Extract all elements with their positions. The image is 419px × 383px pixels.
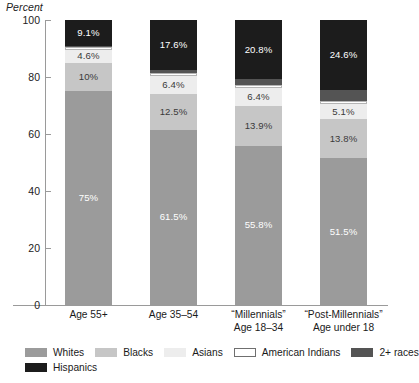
- bar-segment-value: 4.6%: [65, 51, 112, 61]
- bar-segment-value: 51.5%: [320, 227, 367, 237]
- bar-segment-american-indians: [320, 101, 367, 104]
- bar-1: 75%10%4.6%9.1%: [65, 20, 112, 305]
- bar-segment-whites: 55.8%: [235, 146, 282, 305]
- legend-label: Hispanics: [53, 362, 97, 373]
- bar-segment-whites: 61.5%: [150, 130, 197, 305]
- bar-segment-value: 6.4%: [235, 92, 282, 102]
- legend-item-hispanics[interactable]: Hispanics: [25, 362, 97, 373]
- y-tick-label: 60: [0, 128, 40, 140]
- bar-segment-american-indians: [65, 47, 112, 49]
- bar-segment-asians: 6.4%: [150, 76, 197, 94]
- legend-label: Asians: [192, 347, 223, 358]
- bar-3: 55.8%13.9%6.4%20.8%: [235, 20, 282, 305]
- legend-item-2-races[interactable]: 2+ races: [351, 347, 418, 358]
- legend: WhitesBlacksAsiansAmerican Indians2+ rac…: [25, 347, 397, 373]
- y-axis-title: Percent: [6, 1, 43, 13]
- bar-segment-value: 55.8%: [235, 221, 282, 231]
- legend-row-secondary: Hispanics: [25, 362, 397, 373]
- bar-segment-value: 13.9%: [235, 121, 282, 131]
- legend-swatch-icon: [351, 348, 373, 357]
- bar-segment-2-races: [150, 70, 197, 73]
- bar-segment-value: 6.4%: [150, 80, 197, 90]
- legend-swatch-icon: [95, 348, 117, 357]
- y-tick-label: 80: [0, 71, 40, 83]
- x-tick-label-line: “Post-Millennials”: [284, 309, 404, 322]
- bar-segment-value: 13.8%: [320, 134, 367, 144]
- bar-segment-value: 10%: [65, 72, 112, 82]
- legend-swatch-icon: [25, 348, 47, 357]
- bar-segment-value: 5.1%: [320, 107, 367, 117]
- bar-segment-hispanics: 24.6%: [320, 20, 367, 90]
- legend-label: 2+ races: [379, 347, 418, 358]
- legend-swatch-icon: [234, 348, 256, 357]
- bar-segment-whites: 75%: [65, 91, 112, 305]
- x-tick-label-line: Age under 18: [284, 322, 404, 335]
- bar-segment-blacks: 13.8%: [320, 119, 367, 158]
- y-tick-label: 100: [0, 14, 40, 26]
- bar-segment-value: 12.5%: [150, 107, 197, 117]
- bar-segment-asians: 4.6%: [65, 50, 112, 63]
- x-tick-label: “Post-Millennials”Age under 18: [284, 309, 404, 334]
- bar-segment-value: 75%: [65, 193, 112, 203]
- plot-area: 75%10%4.6%9.1%61.5%12.5%6.4%17.6%55.8%13…: [46, 20, 386, 305]
- legend-row-primary: WhitesBlacksAsiansAmerican Indians2+ rac…: [25, 347, 397, 358]
- bar-segment-blacks: 13.9%: [235, 106, 282, 146]
- legend-item-blacks[interactable]: Blacks: [95, 347, 153, 358]
- x-axis-line: [13, 305, 388, 306]
- bar-segment-2-races: [235, 79, 282, 85]
- bar-segment-2-races: [320, 90, 367, 101]
- legend-item-whites[interactable]: Whites: [25, 347, 84, 358]
- bar-segment-value: 9.1%: [65, 28, 112, 38]
- y-tick-mark: [45, 305, 51, 306]
- bar-segment-hispanics: 20.8%: [235, 20, 282, 79]
- legend-item-american-indians[interactable]: American Indians: [234, 347, 341, 358]
- bar-segment-value: 24.6%: [320, 50, 367, 60]
- bar-segment-2-races: [65, 46, 112, 47]
- bar-segment-value: 61.5%: [150, 213, 197, 223]
- legend-label: Blacks: [123, 347, 153, 358]
- bar-segment-blacks: 12.5%: [150, 94, 197, 130]
- y-tick-label: 40: [0, 185, 40, 197]
- bar-segment-american-indians: [150, 73, 197, 76]
- bar-segment-value: 17.6%: [150, 40, 197, 50]
- bar-segment-hispanics: 17.6%: [150, 20, 197, 70]
- bar-segment-asians: 6.4%: [235, 88, 282, 106]
- bar-segment-value: 20.8%: [235, 45, 282, 55]
- legend-label: Whites: [53, 347, 84, 358]
- y-tick-label: 20: [0, 242, 40, 254]
- bar-segment-american-indians: [235, 85, 282, 88]
- bar-4: 51.5%13.8%5.1%24.6%: [320, 20, 367, 305]
- legend-swatch-icon: [164, 348, 186, 357]
- bar-segment-blacks: 10%: [65, 63, 112, 92]
- bar-segment-hispanics: 9.1%: [65, 20, 112, 46]
- bar-segment-whites: 51.5%: [320, 158, 367, 305]
- bar-segment-asians: 5.1%: [320, 104, 367, 119]
- legend-item-asians[interactable]: Asians: [164, 347, 223, 358]
- bar-2: 61.5%12.5%6.4%17.6%: [150, 20, 197, 305]
- legend-swatch-icon: [25, 363, 47, 372]
- legend-label: American Indians: [262, 347, 341, 358]
